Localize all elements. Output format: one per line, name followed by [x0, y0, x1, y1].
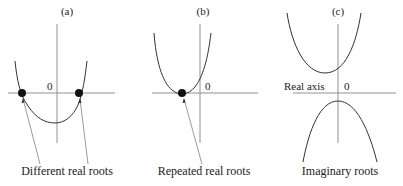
panel-b-arrowhead	[183, 98, 186, 103]
panel-b	[152, 24, 258, 164]
roots-figure: (a) (b) (c) 0 0 0 Real axis Different re…	[0, 0, 403, 186]
panel-a-arrowhead-right	[79, 98, 82, 103]
panel-c-lower-parabola	[303, 101, 377, 162]
panel-a-origin-label: 0	[47, 81, 53, 92]
panel-b-label: (b)	[197, 6, 210, 17]
panel-b-parabola	[154, 33, 211, 94]
panel-a-arrow-right	[80, 99, 88, 164]
panel-a	[8, 24, 115, 164]
panel-a-caption: Different real roots	[21, 165, 113, 177]
panel-c-origin-label: 0	[344, 81, 350, 92]
panel-b-caption: Repeated real roots	[158, 165, 251, 177]
panel-c-upper-parabola	[287, 13, 361, 73]
panel-b-arrow	[184, 99, 202, 164]
figure-graphics	[0, 0, 403, 186]
panel-c-caption: Imaginary roots	[302, 165, 378, 177]
panel-c-real-axis-label: Real axis	[284, 81, 325, 92]
panel-b-origin-label: 0	[205, 81, 211, 92]
panel-a-label: (a)	[61, 6, 73, 17]
panel-a-arrow-left	[23, 99, 40, 164]
panel-b-repeated-root-dot	[178, 89, 186, 97]
panel-c-label: (c)	[332, 6, 344, 17]
panel-a-root-right-dot	[75, 89, 83, 97]
panel-a-root-left-dot	[18, 89, 26, 97]
